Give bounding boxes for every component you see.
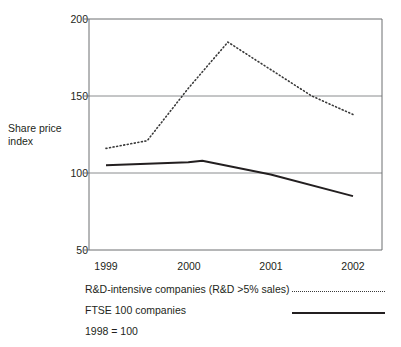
legend-item-ftse100: FTSE 100 companies	[0, 304, 401, 322]
legend-item-rd-intensive: R&D-intensive companies (R&D >5% sales)	[0, 283, 401, 301]
series-line-ftse100	[106, 161, 353, 196]
chart-figure: Share price index 200 150 100 50 1999 20…	[0, 0, 401, 347]
legend-swatch-solid	[292, 312, 385, 314]
chart-footnote: 1998 = 100	[85, 325, 138, 337]
series-line-rd-intensive	[106, 42, 353, 148]
legend-label-ftse100: FTSE 100 companies	[85, 304, 186, 316]
legend-label-rd-intensive: R&D-intensive companies (R&D >5% sales)	[85, 283, 290, 295]
legend-swatch-dotted	[292, 291, 385, 292]
